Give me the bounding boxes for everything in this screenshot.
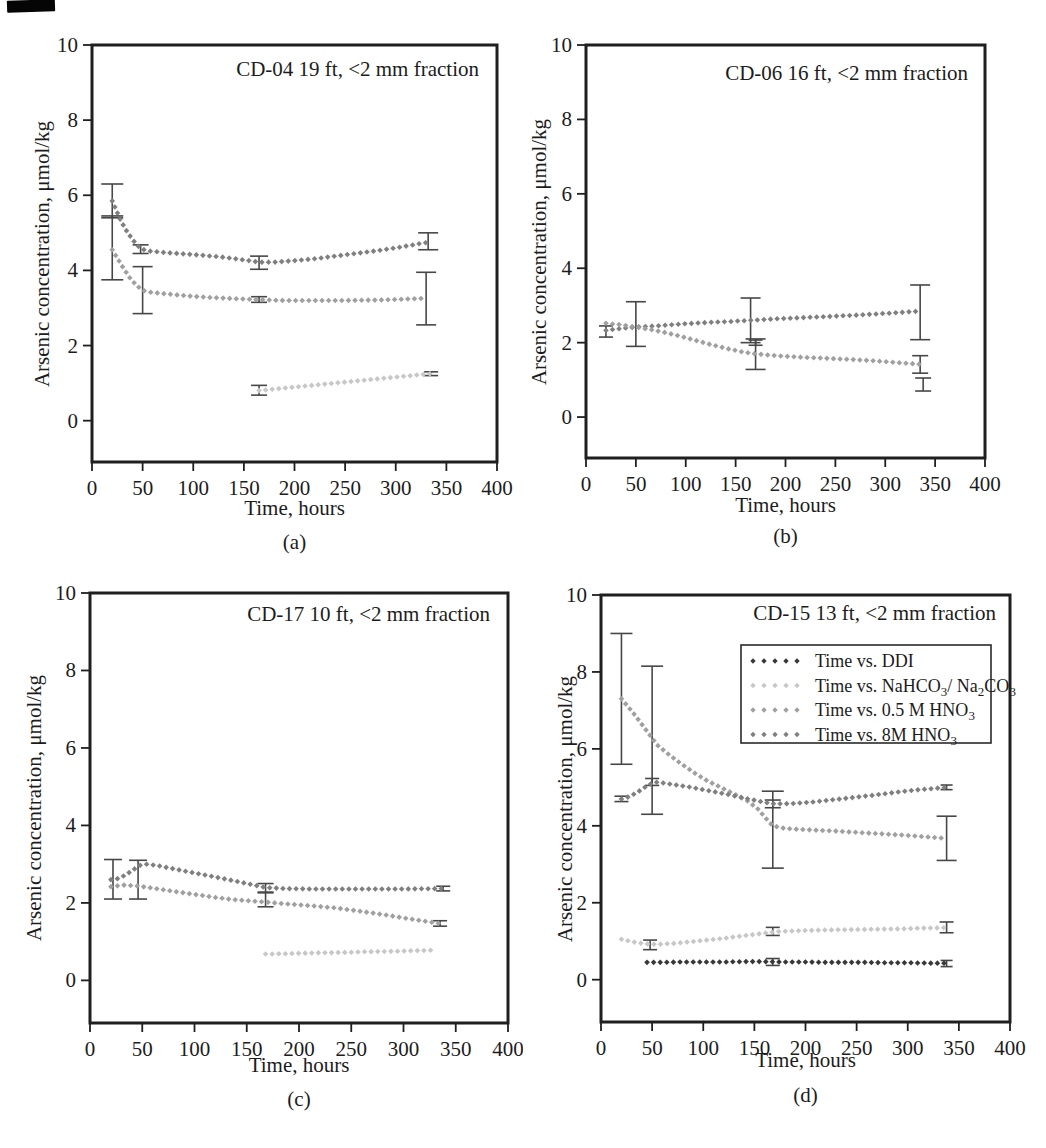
- series-hno3_8m: [108, 862, 444, 892]
- plot-frame: [90, 593, 508, 1023]
- panel-a-caption: (a): [283, 530, 306, 555]
- svg-text:300: 300: [380, 476, 412, 500]
- panel-c-y-axis-label: Arsenic concentration, μmol/kg: [22, 675, 47, 941]
- panel-b: 0501001502002503003504000246810 CD-06 16…: [523, 0, 1046, 574]
- y-axis-ticks: [81, 593, 89, 980]
- panel-d-y-axis-label: Arsenic concentration, μmol/kg: [553, 675, 578, 941]
- plot-frame: [92, 45, 497, 462]
- svg-text:400: 400: [481, 476, 513, 500]
- svg-text:0: 0: [87, 476, 98, 500]
- svg-text:100: 100: [670, 472, 702, 496]
- panel-c-title: CD-17 10 ft, <2 mm fraction: [247, 602, 490, 627]
- panel-d-title: CD-15 13 ft, <2 mm fraction: [753, 601, 996, 626]
- y-axis-ticks: [83, 45, 91, 421]
- svg-text:300: 300: [870, 472, 902, 496]
- svg-text:100: 100: [179, 1037, 211, 1061]
- svg-text:350: 350: [440, 1037, 472, 1061]
- error-bars-hno3_0_5m: [746, 339, 932, 391]
- svg-text:4: 4: [66, 813, 77, 837]
- panel-b-title: CD-06 16 ft, <2 mm fraction: [725, 61, 968, 86]
- svg-text:10: 10: [55, 581, 76, 605]
- panel-a: 0501001502002503003504000246810 CD-04 19…: [0, 0, 523, 574]
- series-nahco3_na2co3: [263, 948, 434, 957]
- svg-text:300: 300: [388, 1037, 420, 1061]
- svg-text:8: 8: [68, 108, 79, 132]
- svg-text:2: 2: [68, 334, 79, 358]
- series-hno3_8m: [619, 779, 947, 806]
- svg-text:4: 4: [562, 256, 573, 280]
- error-bars-hno3_8m: [104, 860, 450, 900]
- svg-text:100: 100: [178, 476, 210, 500]
- panel-b-x-axis-label: Time, hours: [735, 493, 836, 518]
- svg-text:400: 400: [994, 1036, 1026, 1060]
- svg-text:2: 2: [66, 891, 77, 915]
- panel-c-x-axis-label: Time, hours: [249, 1053, 350, 1078]
- y-axis-tick-labels: 0246810: [551, 33, 573, 429]
- svg-text:0: 0: [85, 1037, 96, 1061]
- error-bars-hno3_0_5m: [101, 216, 436, 325]
- panel-d-caption: (d): [793, 1083, 818, 1108]
- legend-label-ddi: Time vs. DDI: [815, 651, 914, 671]
- panel-d-x-axis-label: Time, hours: [755, 1048, 856, 1073]
- figure: 0501001502002503003504000246810 CD-04 19…: [0, 0, 1046, 1148]
- panel-d: 0501001502002503003504000246810Time vs. …: [523, 574, 1046, 1148]
- svg-text:4: 4: [68, 258, 79, 282]
- svg-text:6: 6: [577, 737, 588, 761]
- x-axis-ticks: [601, 1023, 1010, 1031]
- svg-text:6: 6: [562, 182, 573, 206]
- svg-text:0: 0: [596, 1036, 607, 1060]
- svg-text:50: 50: [132, 476, 153, 500]
- plot-frame: [586, 45, 985, 458]
- panel-a-title: CD-04 19 ft, <2 mm fraction: [236, 57, 479, 82]
- svg-text:10: 10: [57, 33, 78, 57]
- x-axis-ticks: [586, 459, 985, 467]
- svg-text:8: 8: [66, 658, 77, 682]
- panel-b-caption: (b): [773, 524, 798, 549]
- svg-text:50: 50: [132, 1037, 153, 1061]
- panel-b-plot: 0501001502002503003504000246810: [523, 0, 1046, 574]
- series-ddi: [644, 959, 947, 966]
- legend: Time vs. DDITime vs. NaHCO3/ Na2CO3Time …: [741, 645, 1016, 748]
- panel-a-plot: 0501001502002503003504000246810: [0, 0, 523, 574]
- svg-text:350: 350: [919, 472, 951, 496]
- panel-c-caption: (c): [287, 1087, 310, 1112]
- svg-text:0: 0: [577, 968, 588, 992]
- svg-text:10: 10: [566, 583, 587, 607]
- panel-c: 0501001502002503003504000246810 CD-17 10…: [0, 574, 523, 1148]
- y-axis-ticks: [592, 595, 600, 980]
- svg-text:0: 0: [581, 472, 592, 496]
- error-bars-hno3_8m: [101, 184, 438, 269]
- panel-a-x-axis-label: Time, hours: [244, 496, 345, 521]
- panel-b-y-axis-label: Arsenic concentration, μmol/kg: [527, 118, 552, 384]
- series-nahco3_na2co3: [256, 371, 432, 393]
- x-axis-ticks: [92, 463, 497, 471]
- svg-text:0: 0: [562, 405, 573, 429]
- svg-text:8: 8: [562, 107, 573, 131]
- svg-text:350: 350: [431, 476, 463, 500]
- svg-text:2: 2: [562, 331, 573, 355]
- svg-text:400: 400: [492, 1037, 523, 1061]
- svg-text:8: 8: [577, 660, 588, 684]
- legend-label-nahco3_na2co3: Time vs. NaHCO3/ Na2CO3: [815, 676, 1016, 699]
- legend-label-hno3_0_5m: Time vs. 0.5 M HNO3: [815, 700, 975, 723]
- error-bars-nahco3_na2co3: [643, 922, 954, 950]
- svg-text:300: 300: [892, 1036, 924, 1060]
- svg-text:2: 2: [577, 891, 588, 915]
- y-axis-tick-labels: 0246810: [57, 33, 79, 433]
- y-axis-ticks: [577, 45, 585, 417]
- svg-text:50: 50: [642, 1036, 663, 1060]
- y-axis-tick-labels: 0246810: [55, 581, 77, 992]
- series-hno3_8m: [109, 198, 428, 265]
- svg-text:6: 6: [66, 736, 77, 760]
- svg-text:0: 0: [66, 968, 77, 992]
- svg-text:6: 6: [68, 183, 79, 207]
- svg-text:350: 350: [943, 1036, 975, 1060]
- svg-text:0: 0: [68, 409, 79, 433]
- x-axis-ticks: [90, 1024, 508, 1032]
- series-nahco3_na2co3: [619, 925, 947, 947]
- svg-text:10: 10: [551, 33, 572, 57]
- svg-text:100: 100: [688, 1036, 720, 1060]
- error-bars-hno3_8m: [599, 285, 930, 346]
- svg-text:400: 400: [969, 472, 1001, 496]
- svg-text:50: 50: [625, 472, 646, 496]
